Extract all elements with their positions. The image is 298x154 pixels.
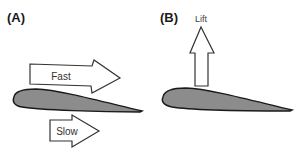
slow-label: Slow (56, 126, 78, 137)
panel-b-label: (B) (160, 10, 178, 25)
lift-arrow-icon (190, 27, 214, 86)
fast-label: Fast (51, 71, 71, 82)
panel-a-label: (A) (7, 10, 25, 25)
panel-b: (B) Lift (160, 10, 292, 111)
airfoil-b (162, 88, 292, 111)
fast-arrow-icon: Fast (30, 60, 120, 93)
airfoil-a (13, 89, 142, 112)
panel-a: (A) Fast Slow (7, 10, 142, 147)
lift-diagram: (A) Fast Slow (B) Lift (0, 0, 298, 154)
lift-label: Lift (195, 14, 208, 24)
slow-arrow-icon: Slow (50, 115, 99, 147)
